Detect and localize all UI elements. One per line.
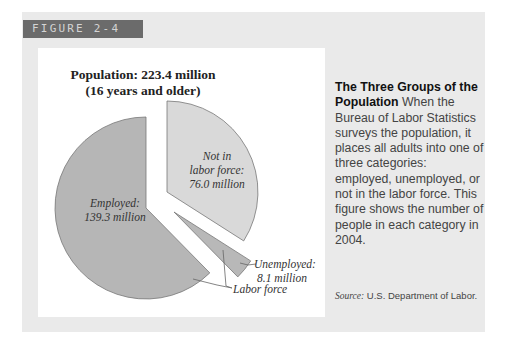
label-labor-force: Labor force	[233, 282, 287, 296]
source-note: Source: U.S. Department of Labor.	[335, 290, 485, 302]
caption-body: When the Bureau of Labor Statistics surv…	[335, 95, 483, 247]
figure-caption: The Three Groups of the Population When …	[335, 80, 485, 248]
source-label: Source:	[335, 291, 364, 301]
label-unemployed: Unemployed: 8.1 million	[254, 257, 310, 285]
source-text: U.S. Department of Labor.	[367, 290, 477, 301]
label-not-in-labor-force: Not in labor force: 76.0 million	[185, 149, 249, 191]
label-employed: Employed: 139.3 million	[80, 196, 150, 224]
